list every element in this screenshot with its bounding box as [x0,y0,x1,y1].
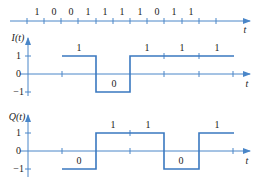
i-symbol-label: 1 [180,42,185,53]
bit-stream-t-label: t [244,24,247,35]
qpsk-iq-diagram: 1 0 0 1 1 1 1 0 1 1 t I(t) 1 0 −1 t 1 0 [0,0,256,185]
q-panel: Q(t) 1 0 −1 t 0 1 1 0 1 [9,111,250,177]
i-symbol-label: 1 [215,42,220,53]
q-axis-ticks [25,130,233,169]
bit-label: 1 [189,6,194,17]
i-axis-ticks [25,53,233,92]
q-t-label: t [246,155,249,166]
i-symbol-label: 1 [145,42,150,53]
bit-stream-axis: 1 0 0 1 1 1 1 0 1 1 t [10,6,250,35]
bit-label: 1 [120,6,125,17]
i-t-label: t [246,78,249,89]
q-symbol-label: 0 [77,155,82,166]
q-symbol-label: 1 [215,119,220,130]
i-tick-neg1: −1 [13,86,24,97]
bit-label: 1 [35,6,40,17]
i-panel: I(t) 1 0 −1 t 1 0 1 1 1 [11,32,250,97]
q-symbol-label: 0 [179,155,184,166]
q-y-label: Q(t) [9,111,26,123]
q-tick-0: 0 [16,145,21,156]
q-tick-1: 1 [16,127,21,138]
bit-label: 1 [103,6,108,17]
i-y-label: I(t) [11,32,25,44]
i-symbol-label: 1 [77,42,82,53]
q-symbol-label: 1 [146,119,151,130]
bit-label: 0 [69,6,74,17]
q-symbol-label: 1 [111,119,116,130]
i-tick-1: 1 [16,50,21,61]
q-tick-neg1: −1 [13,163,24,174]
bit-label: 1 [86,6,91,17]
bit-label: 1 [172,6,177,17]
bit-label: 1 [138,6,143,17]
bit-label: 0 [52,6,57,17]
i-symbol-label: 0 [112,78,117,89]
i-tick-0: 0 [16,68,21,79]
bit-label: 0 [155,6,160,17]
